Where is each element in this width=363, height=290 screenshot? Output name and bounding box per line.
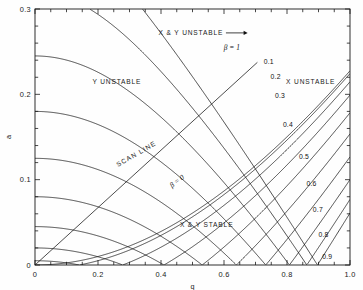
ytick-label-0: 0: [27, 261, 31, 270]
iso-beta-x-0.1: [80, 74, 350, 265]
iso-beta-x-0: [35, 71, 350, 265]
iso-beta-y-0.2: [35, 248, 122, 265]
xtick-label-0.6: 0.6: [218, 270, 229, 279]
xtick-label-1.0: 1.0: [344, 270, 355, 279]
xtick-label-0.8: 0.8: [281, 270, 292, 279]
xtick-label-0.4: 0.4: [155, 270, 166, 279]
xtick-label-0.2: 0.2: [92, 270, 103, 279]
iso-beta-y-0.7: [35, 56, 289, 264]
iso-beta-x-0.3: [164, 95, 350, 265]
iso-beta-y-0.5: [35, 158, 236, 264]
beta-label-0.6: 0.6: [307, 180, 317, 187]
y-axis-label: a: [4, 135, 13, 139]
iso-beta-y-0.3: [35, 227, 164, 265]
beta-label-0.5: 0.5: [299, 153, 309, 160]
beta-label-0.3: 0.3: [275, 92, 285, 99]
ytick-label-0.3: 0.3: [20, 5, 31, 14]
beta-label-0.1: 0.1: [264, 58, 274, 65]
figure-canvas: 00.20.40.60.81.000.10.20.3qaY UNSTABLEX …: [0, 0, 363, 290]
beta-label-0.8: 0.8: [319, 231, 329, 238]
annotation-beta-zero: β = 0: [167, 172, 186, 190]
beta-label-0.9: 0.9: [322, 253, 332, 260]
scan-line: [35, 62, 257, 265]
beta-label-0.4: 0.4: [283, 121, 293, 128]
iso-beta-x-0.4: [202, 113, 350, 265]
annotation-scan-line: SCAN LINE: [115, 139, 157, 167]
x-axis-label: q: [191, 282, 195, 290]
beta-label-0.2: 0.2: [271, 73, 281, 80]
iso-beta-x-0.7: [290, 180, 350, 265]
xtick-label-0: 0: [33, 270, 37, 279]
annotation-xy-stable: X & Y STABLE: [180, 221, 233, 228]
annotation-xy-unstable: X & Y UNSTABLE: [159, 29, 224, 36]
annotation-y-unstable: Y UNSTABLE: [92, 78, 141, 85]
stability-diagram-plot: 00.20.40.60.81.000.10.20.3qaY UNSTABLEX …: [0, 0, 363, 290]
beta-label-0.7: 0.7: [313, 206, 323, 213]
annotation-arrow-head: [244, 31, 248, 35]
ytick-label-0.1: 0.1: [20, 175, 31, 184]
annotation-x-unstable: X UNSTABLE: [286, 78, 335, 85]
annotation-beta-one: β = 1: [223, 43, 240, 52]
ytick-label-0.2: 0.2: [20, 90, 31, 99]
